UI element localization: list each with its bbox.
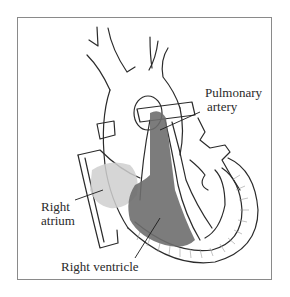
label-pulmonary-line2: artery xyxy=(207,100,237,114)
label-right-ventricle: Right ventricle xyxy=(61,260,139,274)
label-pulmonary-line1: Pulmonary xyxy=(205,86,262,100)
label-right-atrium-line1: Right xyxy=(41,200,70,214)
label-right-atrium-line2: atrium xyxy=(41,214,75,228)
right-ventricle-region xyxy=(128,111,195,246)
left-vessel-branch xyxy=(89,27,98,46)
heart-diagram xyxy=(0,0,290,297)
